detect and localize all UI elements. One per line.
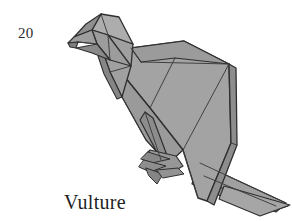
origami-vulture-illustration — [0, 0, 292, 221]
vulture-figure — [68, 14, 290, 216]
figure-caption: Vulture — [64, 192, 126, 212]
beak-hook — [68, 42, 78, 48]
figure-page: 20 — [0, 0, 292, 221]
